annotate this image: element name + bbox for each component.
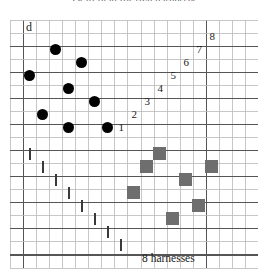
step-number: 1 [119, 122, 125, 133]
tieup-square [153, 147, 166, 160]
step-number: 7 [197, 44, 203, 55]
step-number: 8 [210, 31, 216, 42]
threading-dot [63, 122, 74, 133]
treadling-tick [68, 187, 70, 199]
threading-dot [37, 109, 48, 120]
threading-dot [63, 83, 74, 94]
treadling-tick [81, 200, 83, 212]
threading-dot [76, 57, 87, 68]
tieup-square [179, 173, 192, 186]
step-number: 6 [184, 57, 190, 68]
treadling-tick [55, 174, 57, 186]
treadling-tick [120, 239, 122, 251]
tieup-square [140, 160, 153, 173]
treadling-tick [107, 226, 109, 238]
treadling-tick [42, 161, 44, 173]
threading-dot [24, 70, 35, 81]
tieup-square [205, 160, 218, 173]
step-number: 5 [171, 70, 177, 81]
threading-dot [102, 122, 113, 133]
tieup-square [127, 186, 140, 199]
treadling-tick [29, 148, 31, 160]
page-title: Draft plan for five harnesses [0, 0, 269, 1]
threading-dot [89, 96, 100, 107]
draft-marker-label: d [26, 21, 32, 33]
step-number: 4 [158, 83, 164, 94]
tieup-square [192, 199, 205, 212]
draft-marks-layer: d 8 harnesses 12345678 [10, 17, 257, 264]
draft-grid-area: d 8 harnesses 12345678 [10, 17, 257, 264]
treadling-tick [94, 213, 96, 225]
tieup-square [166, 212, 179, 225]
step-number: 2 [132, 109, 138, 120]
step-number: 3 [145, 96, 151, 107]
threading-dot [50, 44, 61, 55]
harness-count-label: 8 harnesses [142, 252, 195, 264]
weaving-draft-diagram: Draft plan for five harnesses d 8 harnes… [0, 0, 269, 278]
